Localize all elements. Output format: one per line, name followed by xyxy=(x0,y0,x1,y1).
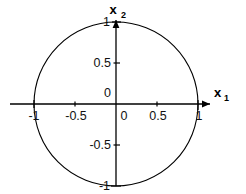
right-arrow-icon xyxy=(202,101,210,108)
x-tick-label-0.5: 0.5 xyxy=(149,109,166,123)
up-arrow-icon xyxy=(113,20,120,28)
y-tick-label-1: 1 xyxy=(103,15,110,29)
y-tick-label-0.5: 0.5 xyxy=(94,56,111,70)
x-axis-label-subscript: 1 xyxy=(224,93,229,103)
x-axis-label: x xyxy=(214,85,222,100)
y-tick-label--0.5: -0.5 xyxy=(89,138,111,152)
plot-canvas: -1 -0.5 0 0.5 1 1 0.5 0 -0.5 -1 x 1 x 2 xyxy=(0,0,246,194)
x-tick-label-1: 1 xyxy=(196,109,203,123)
unit-circle-figure: -1 -0.5 0 0.5 1 1 0.5 0 -0.5 -1 x 1 x 2 xyxy=(0,0,246,194)
x-tick-label-0: 0 xyxy=(121,109,128,123)
y-tick-label--1: -1 xyxy=(99,179,110,193)
x-tick-label--0.5: -0.5 xyxy=(65,109,87,123)
y-axis-label: x xyxy=(109,2,117,17)
y-axis-label-subscript: 2 xyxy=(121,10,126,20)
y-tick-label-0: 0 xyxy=(104,86,111,100)
x-tick-label--1: -1 xyxy=(28,109,39,123)
